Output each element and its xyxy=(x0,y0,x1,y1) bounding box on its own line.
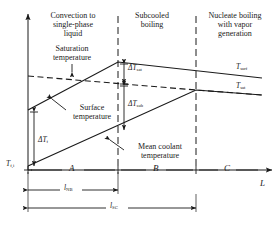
leader-mean-coolant xyxy=(110,140,124,150)
measure-delta-t-f xyxy=(30,112,38,166)
figure-temperature-profile: Convection to single-phase liquid Subcoo… xyxy=(0,0,280,225)
delta-t-f-symbol: ΔT xyxy=(38,135,47,144)
l-sc-subscript: SC xyxy=(112,205,118,210)
region-a-title: Convection to single-phase liquid xyxy=(30,12,116,39)
annotation-surface-temperature: Surface temperature xyxy=(62,104,122,122)
surface-label-line2: temperature xyxy=(62,113,122,122)
delta-t-sub-symbol: ΔT xyxy=(128,99,137,108)
label-delta-t-f: ΔTf xyxy=(38,136,48,144)
dimension-l-nb xyxy=(28,172,118,194)
region-b-title-line2: boiling xyxy=(120,21,184,30)
label-delta-t-sub: ΔTsub xyxy=(128,100,143,108)
region-b-title: Subcooled boiling xyxy=(120,12,184,30)
region-c-title: Nucleate boiling with vapor generation xyxy=(192,12,278,39)
region-a-title-line3: liquid xyxy=(30,30,116,39)
measure-delta-t-sat xyxy=(120,64,128,84)
region-label-a: A xyxy=(69,163,75,173)
t-sat-subscript: sat xyxy=(240,85,245,90)
dimension-label-l-sc: lSC xyxy=(110,202,118,210)
l-nb-subscript: NB xyxy=(66,187,72,192)
inlet-temperature-subscript: f,i xyxy=(10,163,14,168)
delta-t-sat-subscript: sat xyxy=(137,67,142,72)
dimension-label-l-nb: lNB xyxy=(64,184,73,192)
label-t-surf: Tsurf xyxy=(236,63,247,71)
label-inlet-temperature: Tf,i xyxy=(6,160,14,168)
region-c-title-line3: generation xyxy=(192,30,278,39)
label-delta-t-sat: ΔTsat xyxy=(128,64,142,72)
t-surf-subscript: surf xyxy=(240,66,247,71)
label-t-sat: Tsat xyxy=(236,82,245,90)
mean-coolant-label-line2: temperature xyxy=(124,152,196,161)
delta-t-f-subscript: f xyxy=(47,139,49,144)
delta-t-sub-subscript: sub xyxy=(137,103,143,108)
annotation-saturation-temperature: Saturation temperature xyxy=(36,45,108,63)
delta-t-sat-symbol: ΔT xyxy=(128,63,137,72)
region-label-c: C xyxy=(224,163,230,173)
axis-label-length: L xyxy=(260,178,265,188)
saturation-label-line2: temperature xyxy=(36,54,108,63)
region-label-b: B xyxy=(153,163,159,173)
annotation-mean-coolant-temperature: Mean coolant temperature xyxy=(124,143,196,161)
